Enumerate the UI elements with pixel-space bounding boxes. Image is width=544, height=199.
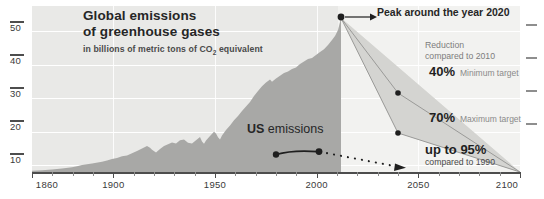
xtick-2100 [520,172,521,178]
xtick-label-2050: 2050 [407,179,429,190]
chart-subtitle: in billions of metric tons of CO2 equiva… [83,44,263,56]
xtick-2030 [378,172,379,176]
minimum-target-label: 40% Minimum target [429,64,519,79]
xtick-1920 [154,172,155,176]
us-emissions-end-dot [316,148,323,155]
chart-subtitle-prefix: in billions of metric tons of CO [83,44,213,54]
right-stub-40 [526,57,537,59]
reduction-note-line-1: Reduction [425,40,495,51]
us-projection-arrowhead [394,164,406,172]
maximum-target-dot [395,130,401,136]
peak-callout-arrowhead [370,14,377,21]
xtick-1870 [52,172,53,176]
deep-target-name: compared to 1990 [425,157,495,167]
maximum-target-name: Maximum target [460,114,521,124]
reduction-note-line-2: compared to 2010 [425,51,495,62]
xtick-label-1900: 1900 [102,179,124,190]
xtick-label-2100: 2100 [496,179,518,190]
xtick-1900 [113,172,114,178]
xtick-label-2000: 2000 [306,179,328,190]
xtick-1990 [296,172,297,176]
ytick-label-30: 30 [10,88,21,99]
right-stub-50 [526,24,537,26]
ytick-label-10: 10 [10,154,21,165]
right-stub-30 [526,90,537,92]
us-emissions-start-dot [273,151,279,157]
us-emissions-label: US emissions [247,122,323,136]
xtick-2090 [500,172,501,176]
right-stub-20 [526,123,537,125]
xtick-1860 [32,172,33,178]
xtick-1890 [93,172,94,176]
xtick-1950 [215,172,216,178]
xtick-1880 [73,172,74,176]
minimum-target-name: Minimum target [460,68,519,78]
xtick-1940 [195,172,196,176]
xtick-2060 [439,172,440,176]
chart-subtitle-suffix: equivalent [216,44,262,54]
chart-title-line-2: of greenhouse gases [83,24,263,40]
us-emissions-label-bold: US [247,122,264,136]
emissions-chart-figure: Global emissions of greenhouse gases in … [0,0,544,199]
xtick-2080 [479,172,480,176]
ytick-label-50: 50 [10,22,21,33]
minimum-target-dot [395,90,401,96]
deep-target-label: up to 95% compared to 1990 [425,140,495,167]
xtick-1930 [174,172,175,176]
xtick-1970 [256,172,257,176]
xtick-2000 [317,172,318,178]
xtick-label-1860: 1860 [36,179,58,190]
xtick-2050 [418,172,419,178]
maximum-target-label: 70% Maximum target [429,110,521,125]
xtick-1910 [134,172,135,176]
xtick-1980 [276,172,277,176]
peak-callout-label: Peak around the year 2020 [377,6,510,18]
maximum-target-percent: 70% [429,110,455,125]
deep-target-percent: up to 95% [425,142,486,157]
reduction-note: Reduction compared to 2010 [425,40,495,62]
xtick-1960 [235,172,236,176]
chart-title-block: Global emissions of greenhouse gases in … [83,8,263,56]
xtick-2070 [459,172,460,176]
chart-title-line-1: Global emissions [83,8,263,24]
xtick-2040 [398,172,399,176]
peak-marker-dot [338,14,345,21]
xtick-label-1950: 1950 [204,179,226,190]
minimum-target-percent: 40% [429,64,455,79]
us-emissions-label-light: emissions [268,122,324,136]
xtick-2020 [357,172,358,176]
xtick-2010 [337,172,338,176]
ytick-label-20: 20 [10,121,21,132]
ytick-label-40: 40 [10,55,21,66]
